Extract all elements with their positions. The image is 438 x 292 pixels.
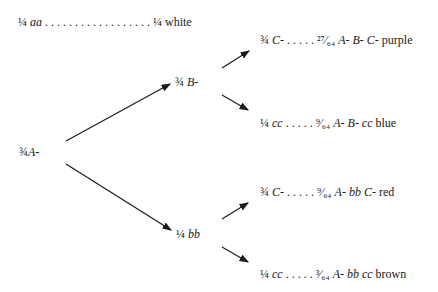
node-B: ¾ B- (175, 75, 198, 89)
arrow-bb-to-C (222, 203, 248, 219)
node-bb: ¼ bb (176, 227, 200, 241)
arrow-B-to-cc (222, 95, 248, 110)
arrow-root-to-bb (66, 164, 171, 230)
arrow-bb-to-cc (222, 247, 248, 262)
white-outcome-line: ¼ aa . . . . . . . . . . . . . . . . . .… (18, 15, 192, 29)
root-node: ¾A- (19, 145, 39, 159)
arrow-B-to-C (222, 51, 249, 68)
outcome-blue: ¼ cc . . . . . ⁹⁄₆₄ A- B- cc blue (260, 116, 396, 130)
outcome-red: ¾ C- . . . . . ⁹⁄₆₄ A- bb C- red (260, 185, 394, 199)
outcome-purple: ¾ C- . . . . . ²⁷⁄₆₄ A- B- C- purple (260, 33, 412, 47)
arrow-root-to-B (66, 84, 170, 141)
outcome-brown: ¼ cc . . . . . ³⁄₆₄ A- bb cc brown (260, 267, 406, 281)
